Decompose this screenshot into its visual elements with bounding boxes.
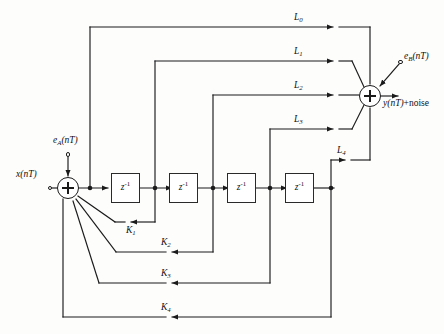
output-label: y(nT)+noise: [383, 99, 429, 109]
coefficient-label-L1: L1: [294, 47, 303, 57]
coefficient-label-L0: L0: [294, 13, 303, 23]
delay-4-exponent: -1: [299, 180, 305, 187]
L1-path: [155, 61, 364, 188]
delay-block-3[interactable]: z-1: [227, 173, 256, 203]
delay-2-exponent: -1: [183, 180, 189, 187]
coefficient-label-K4: K4: [161, 303, 171, 313]
input-signal-label: x(nT): [16, 170, 37, 180]
delay-1-label: z: [121, 182, 125, 192]
delay-3-exponent: -1: [241, 180, 247, 187]
noise-a-terminal-dot: [66, 152, 71, 157]
delay-block-1[interactable]: z-1: [111, 173, 140, 203]
coefficient-label-K2: K2: [161, 238, 171, 248]
delay-block-4[interactable]: z-1: [285, 173, 314, 203]
coefficient-label-L4: L4: [337, 146, 346, 156]
output-adder[interactable]: [359, 85, 381, 107]
noise-b-wire: [380, 64, 399, 86]
coefficient-label-K3: K3: [161, 269, 171, 279]
filter-block-diagram: z-1 z-1 z-1 z-1 x(nT) eA(nT) eB(nT): [0, 0, 444, 334]
delay-4-label: z: [295, 182, 299, 192]
coefficient-label-K1: K1: [126, 226, 136, 236]
delay-block-2[interactable]: z-1: [169, 173, 198, 203]
noise-a-label: eA(nT): [53, 136, 78, 146]
plus-vertical-stroke: [67, 182, 68, 193]
coefficient-label-L3: L3: [294, 115, 303, 125]
noise-b-terminal-dot: [398, 60, 403, 65]
noise-b-label: eB(nT): [404, 52, 429, 62]
delay-2-label: z: [179, 182, 183, 192]
plus-vertical-stroke: [369, 90, 370, 101]
delay-3-label: z: [237, 182, 241, 192]
input-adder[interactable]: [57, 177, 79, 199]
coefficient-label-L2: L2: [294, 81, 303, 91]
wire-layer: [0, 0, 444, 334]
delay-1-exponent: -1: [125, 180, 131, 187]
L0-path: [90, 27, 370, 188]
